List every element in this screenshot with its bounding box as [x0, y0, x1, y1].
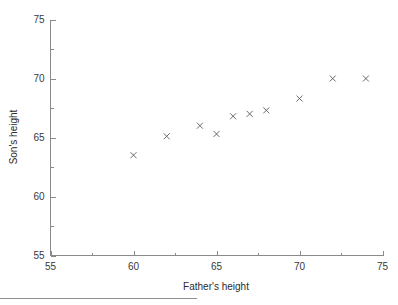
data-point [197, 123, 203, 129]
x-tick-label: 55 [45, 261, 57, 272]
data-point [164, 133, 170, 139]
x-tick-label: 65 [211, 261, 223, 272]
x-axis-tick-labels: 5560657075 [45, 261, 389, 272]
y-tick-label: 65 [33, 132, 45, 143]
y-axis-title: Son's height [8, 109, 19, 164]
data-point [131, 152, 137, 158]
y-axis-tick-labels: 5560657075 [33, 14, 45, 261]
data-point [297, 96, 303, 102]
data-point [263, 107, 269, 113]
data-point [330, 76, 336, 82]
x-axis-major-ticks [52, 251, 384, 256]
axis-lines [51, 20, 383, 256]
plot-canvas: 5560657075 5560657075 Father's height So… [0, 0, 398, 305]
x-tick-label: 60 [128, 261, 140, 272]
x-axis-title: Father's height [183, 281, 249, 292]
data-point [247, 111, 253, 117]
x-tick-label: 75 [377, 261, 389, 272]
data-point [214, 131, 220, 137]
scatter-plot-figure: 5560657075 5560657075 Father's height So… [0, 0, 398, 305]
y-tick-label: 55 [33, 250, 45, 261]
x-tick-label: 70 [294, 261, 306, 272]
y-axis-major-ticks [51, 21, 56, 257]
footer-divider [0, 298, 197, 299]
data-point-markers [131, 76, 369, 159]
y-tick-label: 75 [33, 14, 45, 25]
y-tick-label: 60 [33, 191, 45, 202]
data-point [363, 76, 369, 82]
y-tick-label: 70 [33, 73, 45, 84]
data-point [230, 113, 236, 119]
